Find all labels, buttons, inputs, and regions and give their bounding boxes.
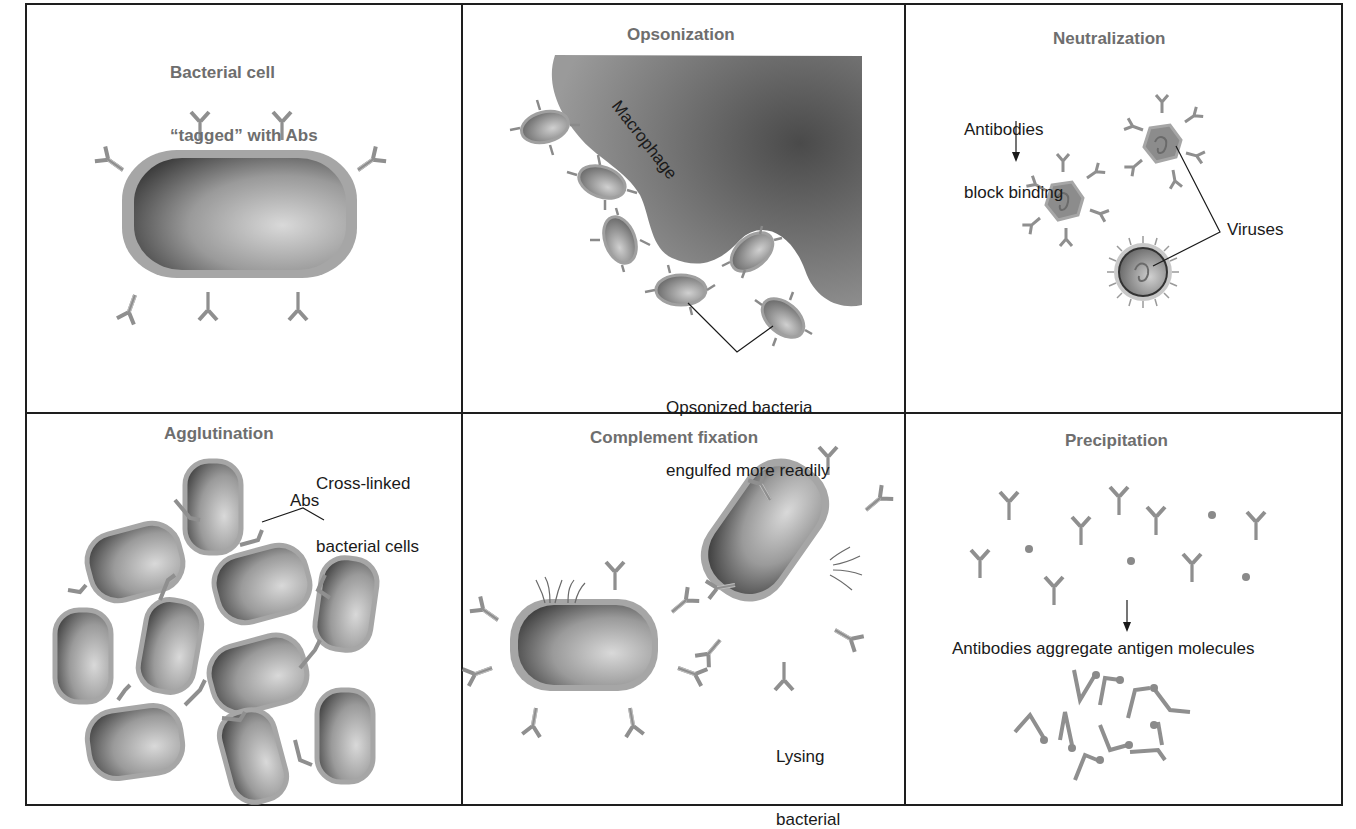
- tagged-title-line1: Bacterial cell: [170, 62, 318, 83]
- cross-linked-callout-line2: bacterial cells: [316, 536, 419, 557]
- lysing-cells-callout: Lysing bacterial cells: [776, 704, 840, 829]
- precipitation-callout: Antibodies aggregate antigen molecules: [952, 638, 1254, 659]
- abs-callout: Abs: [290, 490, 319, 511]
- lysing-callout-line1: Lysing: [776, 746, 840, 767]
- antibodies-callout-line1: Antibodies: [964, 119, 1063, 140]
- panel-title-opsonization: Opsonization: [627, 24, 735, 45]
- tagged-title-line2: “tagged” with Abs: [170, 125, 318, 146]
- opsonized-callout-line2: engulfed more readily: [666, 460, 829, 481]
- opsonized-callout-lines: [688, 303, 773, 352]
- opsonized-callout-line1: Opsonized bacteria: [666, 397, 829, 418]
- cross-linked-callout: Cross-linked bacterial cells: [316, 431, 419, 578]
- panel-title-precipitation: Precipitation: [1065, 430, 1168, 451]
- antibody-antigen-lattice: [1015, 670, 1190, 780]
- viruses-callout: Viruses: [1227, 219, 1283, 240]
- panel-title-complement-fixation: Complement fixation: [590, 427, 758, 448]
- panel-title-neutralization: Neutralization: [1053, 28, 1165, 49]
- panel-title-agglutination: Agglutination: [164, 423, 274, 444]
- panel-title-tagged: Bacterial cell “tagged” with Abs: [170, 20, 318, 167]
- antibodies-callout-line2: block binding: [964, 182, 1063, 203]
- cross-linked-callout-line1: Cross-linked: [316, 473, 419, 494]
- precipitation-arrow: [1123, 600, 1131, 632]
- free-antibodies-and-antigens: [971, 487, 1265, 605]
- lysing-callout-line2: bacterial: [776, 809, 840, 829]
- antibodies-block-binding-callout: Antibodies block binding: [964, 77, 1063, 224]
